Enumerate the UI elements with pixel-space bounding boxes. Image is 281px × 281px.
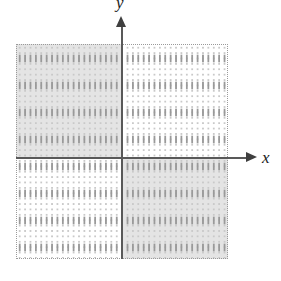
x-axis-arrow-icon: [246, 152, 257, 162]
y-axis-label: y: [116, 0, 124, 11]
y-axis-arrow-icon: [116, 16, 126, 27]
x-axis-line: [16, 157, 246, 159]
coordinate-plane-figure: x y: [0, 0, 281, 281]
y-axis-line: [121, 26, 123, 259]
x-axis-label: x: [262, 149, 270, 166]
